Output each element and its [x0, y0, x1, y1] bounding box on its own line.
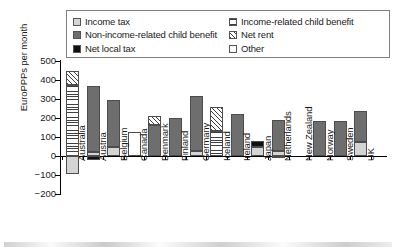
y-tick-label: 100 [28, 132, 56, 141]
x-label-uk: UK [365, 148, 376, 161]
x-label-belgium: Belgium [118, 128, 129, 161]
legend-label: Net local tax [85, 44, 135, 54]
legend-item-income-tax: Income tax [73, 15, 217, 29]
y-tick-label: 500 [28, 56, 56, 65]
legend-column-2: Income-related child benefitNet rentOthe… [229, 15, 354, 56]
x-label-denmark: Denmark [159, 124, 170, 162]
legend-label: Net rent [241, 30, 274, 40]
legend-item-net-local-tax: Net local tax [73, 42, 217, 56]
legend-label: Non-income-related child benefit [85, 30, 217, 40]
y-tick-label: 300 [28, 94, 56, 103]
legend-swatch-non-income-related-child-benefit-icon [73, 31, 81, 39]
legend-column-1: Income taxNon-income-related child benef… [73, 15, 217, 56]
x-label-ireland: Ireland [241, 133, 252, 161]
y-tick-label: −200 [28, 189, 56, 198]
x-label-new-zealand: New Zealand [303, 107, 314, 161]
x-label-germany: Germany [200, 123, 211, 161]
bar-chart: EuroPPPs per month 5004003002001000−100−… [0, 0, 396, 249]
x-tick-mark [62, 156, 63, 160]
y-tick-label: 0 [28, 151, 56, 160]
x-label-austria: Austria [97, 132, 108, 161]
legend-swatch-net-rent-icon [229, 31, 237, 39]
x-label-iceland: Iceland [221, 131, 232, 161]
x-label-norway: Norway [324, 130, 335, 161]
legend-item-other: Other [229, 42, 354, 56]
y-tick-label: 200 [28, 113, 56, 122]
y-axis-title: EuroPPPs per month [18, 8, 29, 128]
legend-label: Other [241, 44, 264, 54]
y-tick-label: 400 [28, 75, 56, 84]
bar-segment-net-rent [210, 107, 223, 131]
x-label-canada: Canada [138, 129, 149, 161]
bar-segment-non-income-related-child-benefit [354, 111, 367, 142]
chart-legend: Income taxNon-income-related child benef… [66, 10, 390, 58]
legend-item-income-related-child-benefit: Income-related child benefit [229, 15, 354, 29]
legend-item-net-rent: Net rent [229, 29, 354, 43]
bar-segment-net-rent [66, 71, 79, 86]
legend-swatch-net-local-tax-icon [73, 45, 81, 53]
x-label-finland: Finland [179, 131, 190, 161]
legend-swatch-other-icon [229, 45, 237, 53]
x-label-australia: Australia [76, 125, 87, 161]
legend-swatch-income-tax-icon [73, 18, 81, 26]
scan-smudge [4, 242, 392, 247]
y-tick-label: −100 [28, 170, 56, 179]
x-label-japan: Japan [262, 136, 273, 161]
legend-swatch-income-related-child-benefit-icon [229, 18, 237, 26]
legend-label: Income tax [85, 17, 130, 27]
legend-label: Income-related child benefit [241, 17, 354, 27]
x-label-netherlands: Netherlands [282, 111, 293, 161]
legend-item-non-income-related-child-benefit: Non-income-related child benefit [73, 29, 217, 43]
page-bottom-artifact [0, 240, 396, 249]
x-label-sweden: Sweden [344, 128, 355, 161]
